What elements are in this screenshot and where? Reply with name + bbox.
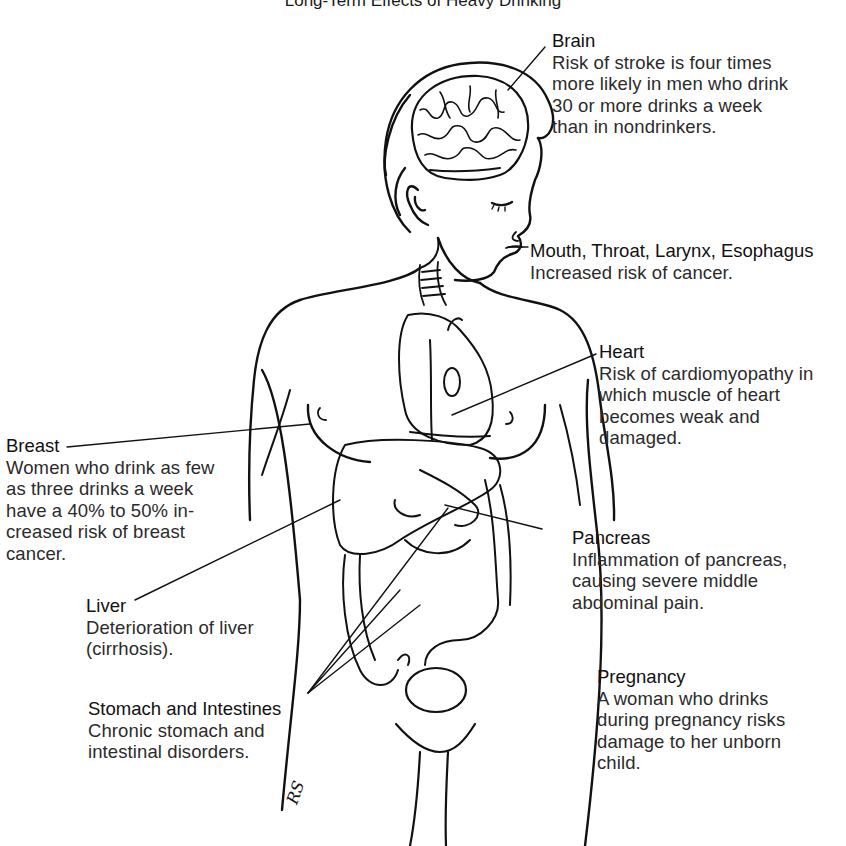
desc-line: during pregnancy risks (597, 709, 785, 731)
desc-line: Risk of stroke is four times (552, 52, 788, 74)
leader-stomach-1 (308, 590, 400, 693)
callout-heading: Pregnancy (597, 666, 785, 688)
desc-line: Deterioration of liver (86, 617, 254, 639)
desc-line: abdominal pain. (572, 592, 787, 614)
desc-line: as three drinks a week (6, 478, 215, 500)
callout-heading: Breast (6, 435, 215, 457)
desc-line: have a 40% to 50% in- (6, 500, 215, 522)
heart (399, 313, 493, 445)
callout-description: Risk of stroke is four times more likely… (552, 52, 788, 138)
callout-heading: Pancreas (572, 527, 787, 549)
callout-pancreas: Pancreas Inflammation of pancreas, causi… (572, 527, 787, 613)
intestines (343, 480, 511, 685)
desc-line: becomes weak and (599, 406, 813, 428)
callout-description: Risk of cardiomyopathy in which muscle o… (599, 363, 813, 449)
callout-liver: Liver Deterioration of liver (cirrhosis)… (86, 595, 254, 660)
desc-line: Risk of cardiomyopathy in (599, 363, 813, 385)
callout-description: Chronic stomach and intestinal disorders… (88, 720, 281, 763)
desc-line: intestinal disorders. (88, 741, 281, 763)
leader-stomach-2 (308, 508, 448, 693)
callout-heart: Heart Risk of cardiomyopathy in which mu… (599, 341, 813, 449)
callout-description: Inflammation of pancreas, causing severe… (572, 549, 787, 614)
callout-heading: Liver (86, 595, 254, 617)
desc-line: cancer. (6, 543, 215, 565)
desc-line: causing severe middle (572, 570, 787, 592)
liver-stomach (333, 440, 500, 554)
callout-heading: Mouth, Throat, Larynx, Esophagus (530, 240, 814, 262)
desc-line: 30 or more drinks a week (552, 95, 788, 117)
callout-heading: Brain (552, 30, 788, 52)
desc-line: than in nondrinkers. (552, 116, 788, 138)
callout-heading: Heart (599, 341, 813, 363)
head-outline (384, 63, 553, 284)
desc-line: Women who drink as few (6, 457, 215, 479)
desc-line: child. (597, 752, 785, 774)
callout-heading: Stomach and Intestines (88, 698, 281, 720)
callout-stomach-intestines: Stomach and Intestines Chronic stomach a… (88, 698, 281, 763)
brain (412, 76, 528, 180)
desc-line: (cirrhosis). (86, 638, 254, 660)
desc-line: Inflammation of pancreas, (572, 549, 787, 571)
callout-pregnancy: Pregnancy A woman who drinks during preg… (597, 666, 785, 774)
callout-brain: Brain Risk of stroke is four times more … (552, 30, 788, 138)
callout-mouth-throat: Mouth, Throat, Larynx, Esophagus Increas… (530, 240, 814, 283)
desc-line: damage to her unborn (597, 731, 785, 753)
desc-line: creased risk of breast (6, 521, 215, 543)
body-outline (249, 268, 614, 846)
desc-line: which muscle of heart (599, 384, 813, 406)
desc-line: damaged. (599, 427, 813, 449)
leader-heart (452, 354, 596, 415)
desc-line: Increased risk of cancer. (530, 262, 814, 284)
desc-line: more likely in men who drink (552, 73, 788, 95)
callout-breast: Breast Women who drink as few as three d… (6, 435, 215, 564)
desc-line: Chronic stomach and (88, 720, 281, 742)
bladder-uterus (396, 668, 475, 846)
callout-description: Deterioration of liver (cirrhosis). (86, 617, 254, 660)
callout-description: A woman who drinks during pregnancy risk… (597, 688, 785, 774)
callout-description: Increased risk of cancer. (530, 262, 814, 284)
desc-line: A woman who drinks (597, 688, 785, 710)
callout-description: Women who drink as few as three drinks a… (6, 457, 215, 565)
